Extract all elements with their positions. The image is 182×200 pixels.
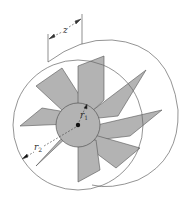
vane-rotor-diagram: z r1 r2 bbox=[0, 0, 182, 200]
z-label: z bbox=[62, 25, 68, 35]
z-dimension bbox=[48, 14, 82, 62]
center-point bbox=[76, 123, 80, 127]
r2-label: r2 bbox=[34, 142, 42, 153]
